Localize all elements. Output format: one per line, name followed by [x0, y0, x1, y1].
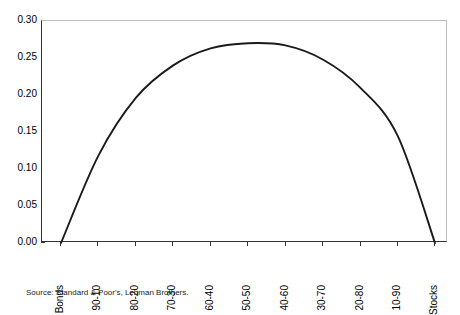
- x-tick-label-10-90: 10-90: [392, 285, 402, 311]
- x-tick-mark: [135, 242, 136, 246]
- source-note: Source: Standard & Poor's, Lehman Brothe…: [26, 288, 189, 298]
- x-tick-mark: [97, 242, 98, 246]
- y-tick-label: 0.20: [3, 89, 37, 99]
- x-tick-label-60-40: 60-40: [205, 285, 215, 311]
- y-tick-label: 0.15: [3, 126, 37, 136]
- y-tick-label: 0.05: [3, 200, 37, 210]
- x-tick-label-stocks: Stocks: [429, 285, 439, 315]
- y-tick-label: 0.30: [3, 15, 37, 25]
- x-tick-label-20-80: 20-80: [355, 285, 365, 311]
- x-tick-mark: [210, 242, 211, 246]
- x-tick-mark: [285, 242, 286, 246]
- x-tick-mark: [247, 242, 248, 246]
- y-tick-label: 0.00: [3, 237, 37, 247]
- curve-series: [42, 21, 448, 243]
- x-tick-mark: [397, 242, 398, 246]
- plot-area: [41, 20, 447, 242]
- chart-title: [0, 0, 460, 3]
- x-tick-label-50-50: 50-50: [242, 285, 252, 311]
- x-tick-mark: [60, 242, 61, 246]
- y-tick-label: 0.10: [3, 163, 37, 173]
- x-tick-mark: [322, 242, 323, 246]
- y-tick-label: 0.25: [3, 52, 37, 62]
- x-tick-mark: [172, 242, 173, 246]
- x-tick-label-40-60: 40-60: [280, 285, 290, 311]
- x-tick-mark: [360, 242, 361, 246]
- x-tick-label-30-70: 30-70: [317, 285, 327, 311]
- y-axis: 0.30 0.25 0.20 0.15 0.10 0.05 0.00: [0, 0, 37, 302]
- x-tick-mark: [434, 242, 435, 246]
- data-line: [61, 43, 435, 243]
